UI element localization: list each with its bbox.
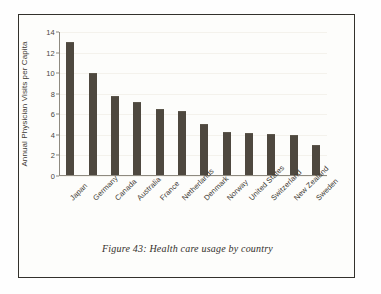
gridline (59, 32, 327, 33)
y-tick-label: 12 (46, 48, 55, 57)
y-tick-label: 10 (46, 69, 55, 78)
bar (245, 133, 253, 175)
figure-page: Annual Physician Visits per Capita 02468… (0, 0, 381, 294)
y-tick-mark (56, 176, 59, 177)
y-tick-mark (56, 73, 59, 74)
y-axis-title: Annual Physician Visits per Capita (20, 32, 31, 176)
plot-area: 02468101214 JapanGermanyCanadaAustraliaF… (59, 32, 327, 176)
gridline (59, 53, 327, 54)
y-tick-label: 2 (51, 151, 55, 160)
y-tick-mark (56, 134, 59, 135)
figure-frame: Annual Physician Visits per Capita 02468… (18, 14, 355, 278)
gridline (59, 94, 327, 95)
x-tick-label: Japan (68, 181, 89, 202)
gridline (59, 73, 327, 74)
x-tick-label: Australia (135, 175, 163, 203)
gridline (59, 135, 327, 136)
bar (66, 42, 74, 175)
y-tick-mark (56, 52, 59, 53)
bar (178, 111, 186, 175)
gridline (59, 155, 327, 156)
y-tick-label: 8 (51, 89, 55, 98)
bar (89, 73, 97, 175)
y-tick-label: 4 (51, 130, 55, 139)
gridline (59, 114, 327, 115)
y-tick-mark (56, 114, 59, 115)
bar (156, 109, 164, 175)
y-tick-label: 0 (51, 172, 55, 181)
bar (111, 96, 119, 175)
figure-caption: Figure 43: Health care usage by country (19, 243, 356, 254)
gridlines (59, 32, 327, 176)
bar (133, 102, 141, 175)
y-tick-mark (56, 93, 59, 94)
y-tick-mark (56, 155, 59, 156)
y-tick-label: 6 (51, 110, 55, 119)
bar (223, 132, 231, 175)
y-axis-line (59, 32, 60, 176)
y-tick-label: 14 (46, 28, 55, 37)
bar-chart: Annual Physician Visits per Capita 02468… (19, 15, 356, 279)
x-axis-line (59, 175, 327, 176)
y-tick-mark (56, 32, 59, 33)
